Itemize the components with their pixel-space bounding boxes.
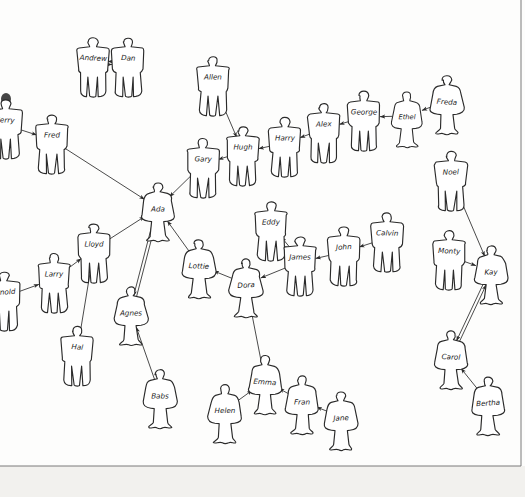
person-name-label: Ada [150, 204, 165, 213]
person-name-label: Ethel [398, 113, 415, 121]
person-name-label: George [351, 107, 378, 116]
person-name-label: Fran [294, 397, 311, 406]
person-name-label: Babs [151, 391, 169, 400]
person-name-label: Hugh [233, 142, 253, 151]
person-name-label: Dan [121, 53, 136, 63]
person-name-label: Lottie [189, 261, 210, 271]
diagram-canvas: AndrewDanAllenJerryFredHughHarryAlexGeor… [0, 0, 525, 497]
person-name-label: Gary [194, 154, 212, 164]
person-name-label: Jane [331, 413, 349, 423]
person-name-label: Kay [484, 267, 498, 276]
person-name-label: Andrew [78, 53, 107, 63]
person-name-label: Dora [237, 280, 255, 290]
person-name-label: Monty [438, 246, 461, 256]
person-name-label: Eddy [262, 217, 281, 226]
person-name-label: Arnold [0, 287, 16, 297]
person-name-label: Alex [315, 119, 333, 129]
paper-bottom-margin [0, 466, 525, 497]
person-name-label: Allen [203, 72, 222, 81]
person-name-label: Fred [44, 130, 61, 139]
person-name-label: Bertha [476, 398, 501, 409]
person-name-label: Noel [443, 167, 459, 176]
person-name-label: Emma [253, 377, 277, 388]
person-name-label: Harry [275, 133, 296, 142]
person-name-label: John [334, 242, 352, 252]
person-name-label: Hal [71, 342, 83, 352]
person-name-label: Larry [45, 269, 64, 278]
person-name-label: Helen [215, 406, 236, 415]
person-name-label: Calvin [376, 228, 399, 238]
person-name-label: Agnes [119, 308, 142, 317]
person-name-label: Freda [436, 97, 457, 107]
person-name-label: Jerry [0, 115, 15, 125]
network-diagram: AndrewDanAllenJerryFredHughHarryAlexGeor… [0, 0, 525, 497]
person-name-label: Carol [441, 352, 460, 362]
person-name-label: James [287, 252, 311, 261]
person-name-label: Lloyd [84, 239, 104, 248]
